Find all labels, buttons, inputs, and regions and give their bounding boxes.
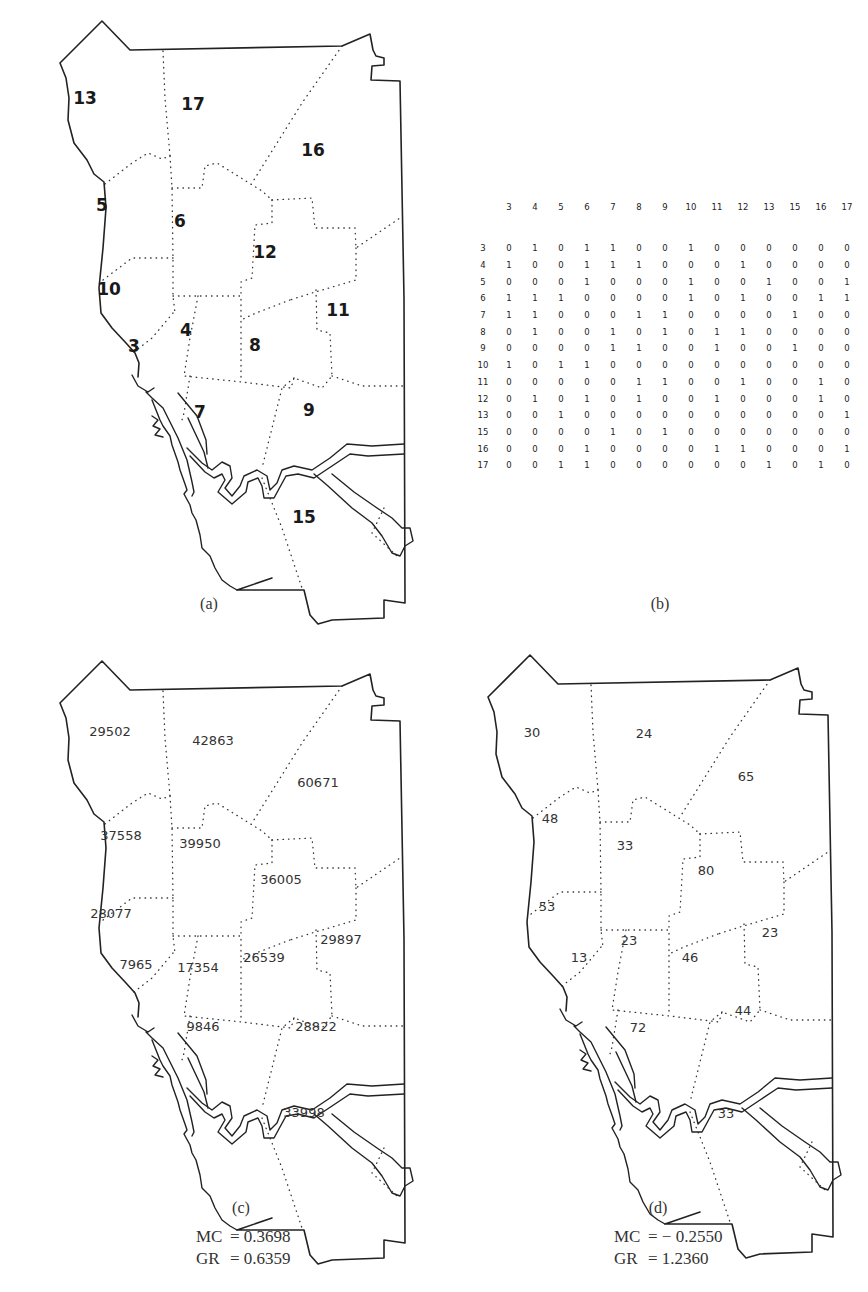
panel-d-statistics: MC= − 0.2550 GR= 1.2360 [614, 1226, 722, 1270]
district-label-6: 33 [617, 838, 634, 853]
district-label-11: 23 [762, 925, 779, 940]
district-label-9: 44 [735, 1003, 752, 1018]
district-label-7: 72 [630, 1020, 647, 1035]
district-label-10: 53 [539, 899, 556, 914]
district-label-8: 46 [682, 950, 699, 965]
gr-label: GR [614, 1248, 648, 1270]
mc-label: MC [614, 1226, 648, 1248]
district-label-13: 30 [524, 725, 541, 740]
panel-d-caption: (d) [649, 1199, 668, 1217]
district-label-5: 48 [542, 811, 559, 826]
district-label-15: 33 [718, 1106, 735, 1121]
map-panel-d-percent-values: 3024654833805323132346724433 [0, 0, 868, 1292]
district-map-outline [0, 0, 868, 1292]
district-label-17: 24 [636, 726, 653, 741]
district-label-3: 13 [571, 950, 588, 965]
district-label-4: 23 [621, 933, 638, 948]
mc-value: = − 0.2550 [648, 1226, 722, 1248]
district-label-12: 80 [698, 863, 715, 878]
gr-value: = 1.2360 [648, 1248, 709, 1270]
district-label-16: 65 [738, 769, 755, 784]
